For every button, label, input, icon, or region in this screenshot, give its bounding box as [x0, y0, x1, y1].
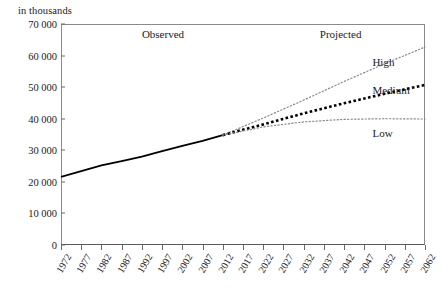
region-label-projected: Projected	[320, 28, 362, 40]
series-label-medium: Medium	[372, 84, 409, 96]
y-tick-mark	[61, 245, 65, 246]
y-tick-mark	[61, 213, 65, 214]
population-projection-chart: in thousands 010 00020 00030 00040 00050…	[0, 0, 448, 290]
y-tick-mark	[61, 55, 65, 56]
series-label-high: High	[372, 56, 394, 68]
y-tick-mark	[61, 118, 65, 119]
series-label-low: Low	[372, 127, 392, 139]
y-tick-mark	[61, 87, 65, 88]
y-tick-mark	[61, 181, 65, 182]
series-lines-layer	[0, 0, 448, 290]
region-label-observed: Observed	[142, 28, 184, 40]
y-tick-mark	[61, 24, 65, 25]
y-tick-mark	[61, 150, 65, 151]
series-line-observed	[61, 135, 223, 177]
